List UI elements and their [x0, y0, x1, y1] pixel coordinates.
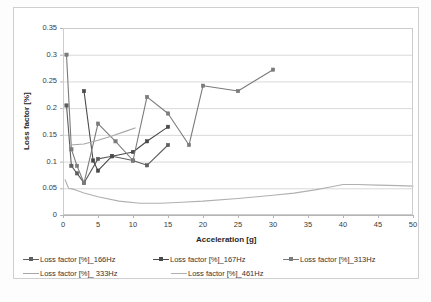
x-tick-label-50: 50 — [401, 220, 425, 229]
legend-swatch-icon — [22, 268, 40, 278]
series-marker-2-11 — [236, 89, 239, 92]
legend-swatch-icon — [170, 268, 188, 278]
legend-row-1: Loss factor [%]_166HzLoss factor [%]_167… — [22, 252, 412, 266]
legend-marker-icon — [159, 257, 163, 261]
legend-item-loss-factor-166hz[interactable]: Loss factor [%]_166Hz — [22, 252, 152, 266]
series-marker-1-5 — [145, 140, 148, 143]
series-marker-2-1 — [70, 148, 73, 151]
series-marker-0-1 — [70, 164, 73, 167]
legend-label: Loss factor [%]_167Hz — [170, 255, 245, 264]
series-marker-2-6 — [131, 159, 134, 162]
x-tick-label-5: 5 — [86, 220, 110, 229]
legend-label: Loss factor [%]_461Hz — [188, 269, 263, 278]
x-tick-label-30: 30 — [261, 220, 285, 229]
x-tick-label-25: 25 — [226, 220, 250, 229]
series-marker-1-1 — [91, 159, 94, 162]
legend-item-loss-factor-333hz[interactable]: Loss factor [%]_ 333Hz — [22, 266, 170, 280]
series-marker-0-4 — [96, 157, 99, 160]
legend-swatch-icon — [282, 254, 300, 264]
legend-marker-icon — [289, 257, 293, 261]
legend-row-2: Loss factor [%]_ 333HzLoss factor [%]_46… — [22, 266, 412, 280]
legend-swatch-icon — [152, 254, 170, 264]
legend-line-icon — [171, 273, 187, 274]
x-axis-title: Acceleration [g] — [196, 235, 256, 244]
series-marker-2-8 — [166, 112, 169, 115]
legend-label: Loss factor [%]_313Hz — [300, 255, 375, 264]
plot-background — [63, 28, 413, 215]
chart-legend: Loss factor [%]_166HzLoss factor [%]_167… — [22, 252, 412, 280]
legend-label: Loss factor [%]_ 333Hz — [40, 269, 118, 278]
series-marker-2-3 — [82, 181, 85, 184]
series-marker-2-9 — [187, 143, 190, 146]
x-tick-label-40: 40 — [331, 220, 355, 229]
series-marker-2-0 — [65, 53, 68, 56]
legend-marker-icon — [29, 257, 33, 261]
legend-item-loss-factor-313hz[interactable]: Loss factor [%]_313Hz — [282, 252, 412, 266]
series-marker-1-6 — [166, 125, 169, 128]
series-marker-2-10 — [201, 84, 204, 87]
x-tick-label-35: 35 — [296, 220, 320, 229]
legend-swatch-icon — [22, 254, 40, 264]
series-marker-0-0 — [65, 104, 68, 107]
series-marker-2-5 — [114, 140, 117, 143]
chart-container: Loss factor [%] 00.050.10.150.20.250.30.… — [0, 0, 431, 302]
legend-label: Loss factor [%]_166Hz — [40, 255, 115, 264]
series-marker-2-4 — [96, 122, 99, 125]
series-marker-0-7 — [145, 164, 148, 167]
series-marker-1-2 — [96, 169, 99, 172]
x-tick-label-0: 0 — [51, 220, 75, 229]
series-marker-0-8 — [166, 143, 169, 146]
legend-item-loss-factor-167hz[interactable]: Loss factor [%]_167Hz — [152, 252, 282, 266]
series-marker-1-3 — [110, 155, 113, 158]
series-marker-2-7 — [145, 95, 148, 98]
x-tick-label-45: 45 — [366, 220, 390, 229]
series-marker-0-2 — [75, 172, 78, 175]
x-tick-label-20: 20 — [191, 220, 215, 229]
x-tick-label-15: 15 — [156, 220, 180, 229]
series-marker-2-12 — [271, 68, 274, 71]
series-marker-1-0 — [82, 89, 85, 92]
x-tick-label-10: 10 — [121, 220, 145, 229]
legend-line-icon — [23, 273, 39, 274]
series-marker-2-2 — [75, 164, 78, 167]
legend-item-loss-factor-461hz[interactable]: Loss factor [%]_461Hz — [170, 266, 318, 280]
